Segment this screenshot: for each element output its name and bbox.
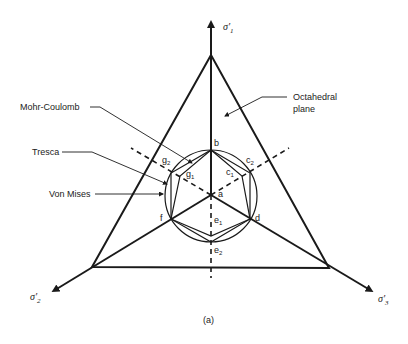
tresca-leader — [62, 152, 167, 184]
point-e1-label: e1 — [214, 215, 223, 226]
point-g1-label: g1 — [186, 169, 195, 180]
point-a-label: a — [218, 189, 223, 199]
octahedral-label: Octahedral — [293, 92, 337, 102]
tresca-label: Tresca — [32, 147, 59, 157]
octahedral-plane-diagram: Mohr-Coulomb Tresca Von Mises Octahedral… — [0, 0, 408, 344]
figure-caption: (a) — [203, 315, 214, 325]
sigma2-axis — [55, 195, 211, 290]
sigma2-label: σ'2 — [30, 291, 41, 305]
point-f-label: f — [160, 213, 163, 223]
point-b-label: b — [214, 138, 219, 148]
sigma3-axis — [211, 195, 370, 290]
point-d-label: d — [255, 213, 260, 223]
sigma3-label: σ'3 — [378, 293, 389, 307]
point-c2-label: c2 — [246, 155, 255, 166]
plane-label: plane — [293, 104, 315, 114]
sigma1-label: σ'1 — [223, 21, 234, 35]
point-g2-label: g2 — [162, 155, 171, 166]
mohr-coulomb-label: Mohr-Coulomb — [20, 102, 80, 112]
octahedral-leader — [225, 97, 287, 116]
leader-lines — [62, 97, 287, 194]
point-e2-label: e2 — [214, 245, 223, 256]
von-mises-label: Von Mises — [49, 189, 91, 199]
